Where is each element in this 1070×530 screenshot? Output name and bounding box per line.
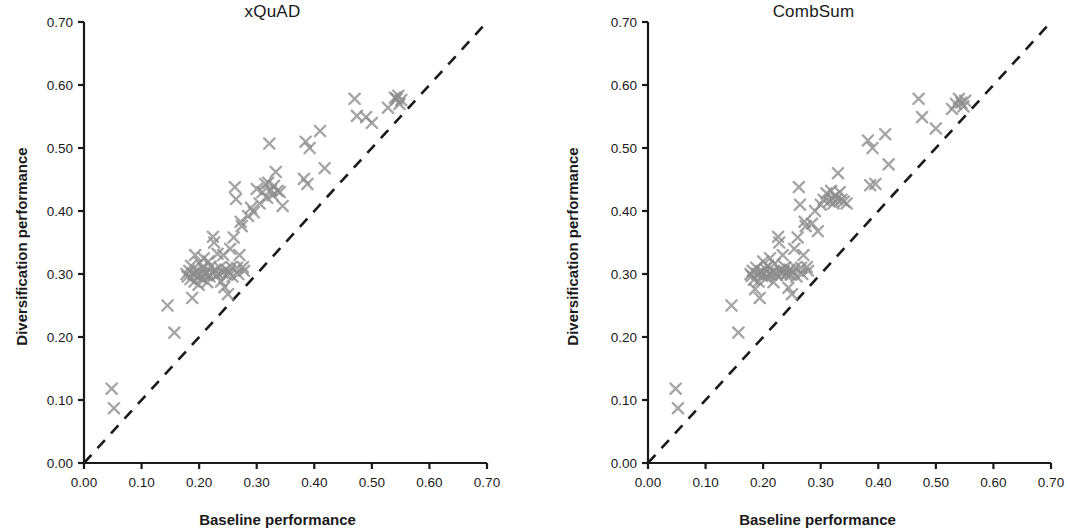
data-point xyxy=(794,182,804,192)
data-point xyxy=(225,244,235,254)
x-tick-label: 0.50 xyxy=(923,475,949,490)
data-point xyxy=(349,94,359,104)
data-point xyxy=(798,250,808,260)
data-point xyxy=(813,226,823,236)
data-point xyxy=(234,250,244,260)
plot-canvas-1: 0.000.100.200.300.400.500.600.700.000.10… xyxy=(611,15,1064,490)
data-point xyxy=(106,383,116,393)
diagonal-reference-line xyxy=(648,22,1051,463)
y-tick-label: 0.30 xyxy=(611,267,637,282)
data-point xyxy=(230,182,240,192)
y-tick-label: 0.00 xyxy=(47,456,73,471)
plot-area-combsum: 0.000.100.200.300.400.500.600.700.000.10… xyxy=(535,0,1070,530)
x-tick-label: 0.40 xyxy=(865,475,891,490)
data-point xyxy=(319,163,329,173)
data-point xyxy=(833,168,843,178)
y-tick-label: 0.20 xyxy=(611,330,637,345)
data-point xyxy=(795,200,805,210)
x-tick-label: 0.20 xyxy=(186,475,212,490)
y-tick-label: 0.10 xyxy=(611,393,637,408)
diagonal-reference-line xyxy=(84,22,487,463)
y-tick-label: 0.70 xyxy=(47,15,73,30)
data-point xyxy=(243,211,253,221)
data-point xyxy=(264,138,274,148)
x-tick-label: 0.40 xyxy=(301,475,327,490)
chart-panel-combsum: CombSum Diversification performance Base… xyxy=(535,0,1070,530)
data-point xyxy=(169,327,179,337)
chart-panel-xquad: xQuAD Diversification performance Baseli… xyxy=(0,0,535,530)
data-point xyxy=(778,250,788,260)
x-tick-label: 0.60 xyxy=(980,475,1006,490)
y-tick-label: 0.40 xyxy=(47,204,73,219)
plot-area-xquad: 0.000.100.200.300.400.500.600.700.000.10… xyxy=(0,0,535,530)
data-point xyxy=(162,300,172,310)
x-tick-label: 0.70 xyxy=(1038,475,1064,490)
x-tick-label: 0.00 xyxy=(71,475,97,490)
plot-canvas-0: 0.000.100.200.300.400.500.600.700.000.10… xyxy=(47,15,500,490)
data-point xyxy=(367,118,377,128)
x-tick-label: 0.30 xyxy=(244,475,270,490)
data-point xyxy=(913,94,923,104)
x-tick-label: 0.10 xyxy=(128,475,154,490)
y-tick-label: 0.00 xyxy=(611,456,637,471)
data-point xyxy=(302,179,312,189)
y-tick-label: 0.20 xyxy=(47,330,73,345)
y-tick-label: 0.10 xyxy=(47,393,73,408)
y-tick-label: 0.40 xyxy=(611,204,637,219)
data-point xyxy=(231,194,241,204)
x-tick-label: 0.30 xyxy=(808,475,834,490)
data-point xyxy=(792,232,802,242)
data-point xyxy=(271,167,281,177)
data-point xyxy=(187,293,197,303)
data-point xyxy=(109,403,119,413)
x-tick-label: 0.60 xyxy=(416,475,442,490)
y-tick-label: 0.30 xyxy=(47,267,73,282)
x-tick-label: 0.00 xyxy=(635,475,661,490)
y-tick-label: 0.60 xyxy=(47,78,73,93)
x-tick-label: 0.20 xyxy=(750,475,776,490)
y-tick-label: 0.60 xyxy=(611,78,637,93)
data-point xyxy=(315,126,325,136)
data-point xyxy=(726,300,736,310)
data-point xyxy=(228,232,238,242)
x-tick-label: 0.70 xyxy=(474,475,500,490)
data-point xyxy=(917,112,927,122)
y-tick-label: 0.50 xyxy=(611,141,637,156)
data-point xyxy=(789,244,799,254)
data-point xyxy=(880,129,890,139)
data-point xyxy=(673,403,683,413)
data-point xyxy=(277,201,287,211)
data-point xyxy=(733,327,743,337)
x-tick-label: 0.50 xyxy=(359,475,385,490)
figure-root: xQuAD Diversification performance Baseli… xyxy=(0,0,1070,530)
data-point xyxy=(883,159,893,169)
data-point xyxy=(670,383,680,393)
x-tick-label: 0.10 xyxy=(692,475,718,490)
y-tick-label: 0.50 xyxy=(47,141,73,156)
data-point xyxy=(931,123,941,133)
y-tick-label: 0.70 xyxy=(611,15,637,30)
